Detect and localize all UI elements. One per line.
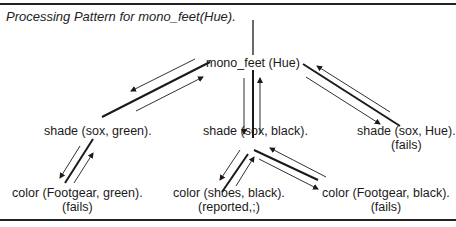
edge-root-shade-green bbox=[102, 62, 210, 117]
arrow-down-shade-black-footgear bbox=[259, 159, 318, 189]
node-shade-green-label: shade (sox, green). bbox=[44, 124, 152, 138]
node-root: mono_feet (Hue) bbox=[206, 56, 300, 70]
node-color-footgear-black-status: (fails) bbox=[322, 200, 450, 214]
node-shade-hue-label: shade (sox, Hue). bbox=[357, 124, 456, 138]
edge-shade-green-color-footgear-green bbox=[65, 139, 93, 183]
node-color-footgear-black-label: color (Footgear, black). bbox=[322, 186, 450, 200]
arrow-down-root-shade-hue bbox=[306, 77, 380, 124]
arrow-down-shade-green-color bbox=[60, 146, 80, 178]
edge-shade-black-color-footgear-black bbox=[254, 150, 318, 180]
node-color-shoes-black: color (shoes, black). (reported,;) bbox=[173, 186, 285, 214]
node-shade-hue-status: (fails) bbox=[357, 138, 456, 152]
arrow-up-color-shade-green bbox=[74, 153, 93, 183]
arrow-up-shoes-shade-black bbox=[236, 157, 254, 186]
node-root-label: mono_feet (Hue) bbox=[206, 56, 300, 70]
node-color-footgear-green-label: color (Footgear, green). bbox=[12, 186, 143, 200]
node-shade-green: shade (sox, green). bbox=[44, 124, 152, 138]
edge-root-shade-hue bbox=[303, 64, 400, 126]
bottom-rule bbox=[0, 219, 456, 221]
node-shade-hue: shade (sox, Hue). (fails) bbox=[357, 124, 456, 152]
arrow-down-shade-black-shoes bbox=[220, 150, 240, 180]
node-color-footgear-black: color (Footgear, black). (fails) bbox=[322, 186, 450, 214]
node-color-footgear-green-status: (fails) bbox=[12, 200, 143, 214]
node-color-footgear-green: color (Footgear, green). (fails) bbox=[12, 186, 143, 214]
node-color-shoes-black-status: (reported,;) bbox=[173, 200, 285, 214]
arrow-up-shade-hue-root bbox=[317, 66, 390, 112]
node-shade-black-label: shade (sox, black). bbox=[203, 124, 308, 138]
node-color-shoes-black-label: color (shoes, black). bbox=[173, 186, 285, 200]
node-shade-black: shade (sox, black). bbox=[203, 124, 308, 138]
